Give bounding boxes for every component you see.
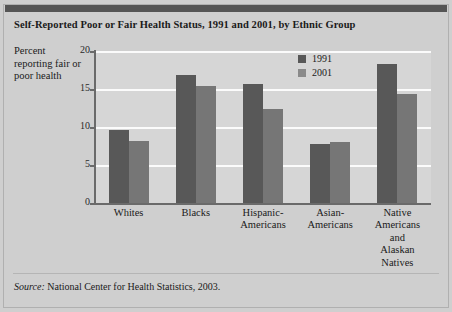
y-tick-label: 15 xyxy=(68,82,90,93)
y-tick-label: 20 xyxy=(68,44,90,55)
bar-2001 xyxy=(196,86,216,203)
chart-legend: 19912001 xyxy=(298,52,332,80)
bar-2001 xyxy=(263,109,283,203)
source-note: Source: National Center for Health Stati… xyxy=(14,281,220,292)
y-tick-mark xyxy=(90,89,95,91)
category-label: Blacks xyxy=(162,207,229,219)
plot-area xyxy=(95,51,431,203)
legend-swatch-icon xyxy=(298,69,306,77)
category-label-line: Americans xyxy=(229,219,296,231)
top-accent-band xyxy=(5,5,447,12)
source-text: National Center for Health Statistics, 2… xyxy=(47,281,220,292)
bar-1991 xyxy=(310,144,330,203)
y-tick-label: 5 xyxy=(68,158,90,169)
y-tick-label: 0 xyxy=(68,196,90,207)
legend-item-1991: 1991 xyxy=(298,52,332,65)
category-label-line: and xyxy=(364,232,431,244)
chart-title: Self-Reported Poor or Fair Health Status… xyxy=(14,19,434,30)
category-label: Hispanic-Americans xyxy=(229,207,296,232)
legend-swatch-icon xyxy=(298,55,306,63)
legend-item-2001: 2001 xyxy=(298,66,332,79)
gridline xyxy=(95,51,431,53)
category-label-line: Asian- xyxy=(297,207,364,219)
bar-1991 xyxy=(109,130,129,203)
category-label: NativeAmericansandAlaskanNatives xyxy=(364,207,431,269)
category-label: Whites xyxy=(95,207,162,219)
chart-figure: Self-Reported Poor or Fair Health Status… xyxy=(0,0,452,312)
category-label-line: Natives xyxy=(364,257,431,269)
y-tick-mark xyxy=(90,51,95,53)
category-label: Asian-Americans xyxy=(297,207,364,232)
category-label-line: Americans xyxy=(364,219,431,231)
y-tick-mark xyxy=(90,127,95,129)
source-label: Source: xyxy=(14,281,45,292)
y-tick-mark xyxy=(90,165,95,167)
source-divider xyxy=(13,273,439,274)
category-label-line: Native xyxy=(364,207,431,219)
x-axis-line xyxy=(94,203,431,205)
bar-2001 xyxy=(129,141,149,203)
bar-2001 xyxy=(330,142,350,203)
category-label-line: Whites xyxy=(95,207,162,219)
y-axis-tick-labels: 05101520 xyxy=(66,51,90,203)
bar-1991 xyxy=(377,64,397,203)
bar-1991 xyxy=(243,84,263,203)
legend-label: 2001 xyxy=(312,67,332,78)
y-tick-mark xyxy=(90,203,95,205)
category-label-line: Alaskan xyxy=(364,244,431,256)
bar-2001 xyxy=(397,94,417,203)
category-label-line: Blacks xyxy=(162,207,229,219)
category-label-line: Americans xyxy=(297,219,364,231)
y-tick-label: 10 xyxy=(68,120,90,131)
category-label-line: Hispanic- xyxy=(229,207,296,219)
legend-label: 1991 xyxy=(312,53,332,64)
bar-1991 xyxy=(176,75,196,203)
